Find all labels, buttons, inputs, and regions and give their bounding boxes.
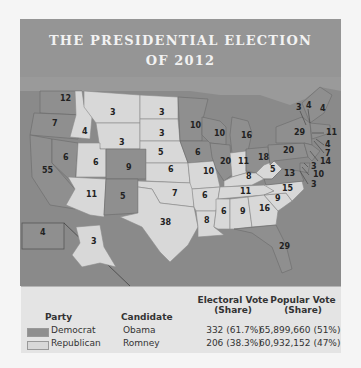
row-republican-candidate: Romney: [123, 337, 160, 349]
ev-label-hi: 4: [40, 228, 46, 237]
row-democrat-candidate: Obama: [123, 324, 156, 336]
ev-label-ne: 5: [158, 148, 164, 157]
ev-label-nv: 6: [63, 153, 69, 162]
header-popular-line2: (Share): [265, 305, 341, 315]
map-svg: 1275546336911533567381061068102016111881…: [20, 77, 341, 286]
ev-label-nm: 5: [120, 192, 126, 201]
ev-label-ca: 55: [42, 166, 54, 175]
ev-label-ok: 7: [172, 189, 178, 198]
ev-label-ia: 6: [195, 148, 201, 157]
us-election-map: 1275546336911533567381061068102016111881…: [20, 77, 341, 286]
row-republican-party: Republican: [51, 337, 101, 349]
ev-label-la: 8: [204, 216, 210, 225]
ev-label-pa: 20: [283, 146, 295, 155]
ev-label-al: 9: [240, 207, 246, 216]
state-mt: [84, 91, 140, 123]
ev-label-ga: 16: [259, 204, 271, 213]
ev-label-tn: 11: [240, 187, 252, 196]
ev-label-wi: 10: [214, 129, 226, 138]
ev-label-ri: 4: [325, 140, 331, 149]
ev-label-fl: 29: [279, 242, 291, 251]
ev-label-me: 4: [320, 104, 326, 113]
ev-label-ma: 11: [326, 128, 338, 137]
header-electoral-line2: (Share): [193, 305, 273, 315]
legend-table: Party Candidate Electoral Vote (Share) P…: [21, 286, 341, 353]
ev-label-il: 20: [220, 157, 232, 166]
row-democrat-popular: 65,899,660 (51%): [259, 324, 339, 336]
header-electoral-line1: Electoral Vote: [193, 295, 273, 305]
ev-label-ny: 29: [294, 128, 306, 137]
ev-label-ak: 3: [91, 237, 97, 246]
ev-label-wa: 12: [60, 94, 71, 103]
ev-label-sd: 3: [159, 129, 165, 138]
ev-label-id: 4: [82, 127, 88, 136]
ev-label-ky: 8: [246, 172, 252, 181]
state-wy: [96, 123, 140, 149]
state-ne: [140, 141, 188, 163]
ev-label-tx: 38: [160, 218, 172, 227]
ev-label-az: 11: [86, 190, 98, 199]
header-popular-line1: Popular Vote: [265, 295, 341, 305]
republican-swatch: [27, 341, 49, 350]
ev-label-ut: 6: [93, 158, 99, 167]
ev-label-nc: 15: [282, 184, 294, 193]
title-line-2: OF 2012: [20, 51, 341, 71]
democrat-swatch: [27, 328, 49, 337]
ev-label-or: 7: [52, 119, 58, 128]
ev-label-mn: 10: [190, 121, 202, 130]
header-popular: Popular Vote (Share): [265, 295, 341, 315]
ev-label-sc: 9: [275, 194, 281, 203]
ev-label-mi: 16: [241, 131, 253, 140]
map-title: THE PRESIDENTIAL ELECTION OF 2012: [20, 19, 341, 77]
ev-label-wy: 3: [119, 138, 125, 147]
ev-label-mt: 3: [110, 108, 116, 117]
ev-label-nj: 14: [320, 157, 332, 166]
ev-label-oh: 18: [258, 153, 270, 162]
ev-label-ks: 6: [168, 165, 174, 174]
ev-label-vt: 3: [296, 103, 302, 112]
ev-label-in: 11: [238, 157, 250, 166]
ev-label-va: 13: [284, 169, 295, 178]
ev-label-dc: 3: [311, 180, 317, 189]
header-party: Party: [45, 312, 97, 322]
title-line-1: THE PRESIDENTIAL ELECTION: [20, 31, 341, 51]
ev-label-md: 10: [313, 170, 325, 179]
state-md-de: [300, 163, 310, 173]
ev-label-co: 9: [126, 163, 132, 172]
header-electoral: Electoral Vote (Share): [193, 295, 273, 315]
ev-label-ar: 6: [202, 191, 208, 200]
header-candidate: Candidate: [121, 312, 191, 322]
ev-label-mo: 10: [203, 167, 215, 176]
ev-label-nd: 3: [159, 108, 165, 117]
ev-label-wv: 5: [270, 165, 276, 174]
row-republican-popular: 60,932,152 (47%): [259, 337, 339, 349]
ev-label-nh: 4: [306, 101, 312, 110]
row-democrat-party: Democrat: [51, 324, 95, 336]
ev-label-ms: 6: [221, 207, 227, 216]
